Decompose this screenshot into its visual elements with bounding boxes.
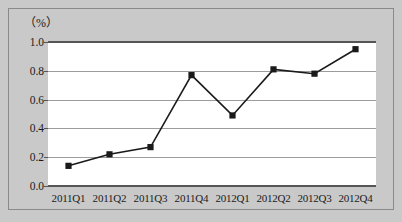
x-axis-tick-label: 2011Q1 (52, 192, 86, 204)
y-axis-tick-label: 0.0 (14, 180, 44, 192)
data-point-marker (147, 144, 153, 150)
y-axis-tick-label: 0.8 (14, 65, 44, 77)
y-axis-unit-label: （%） (24, 13, 58, 31)
x-axis-tick-label: 2012Q2 (256, 192, 290, 204)
y-axis-tick-label: 0.2 (14, 151, 44, 163)
x-axis-tick-label: 2011Q2 (93, 192, 127, 204)
y-axis-tick-label: 1.0 (14, 36, 44, 48)
data-point-marker (311, 71, 317, 77)
x-axis-tick-label: 2012Q1 (215, 192, 249, 204)
data-point-marker (229, 112, 235, 118)
x-axis-tick-label: 2011Q3 (134, 192, 168, 204)
data-point-marker (65, 163, 71, 169)
chart-figure: （%） 0.00.20.40.60.81.0 2011Q12011Q22011Q… (0, 0, 402, 222)
plot-area (48, 42, 376, 186)
data-point-marker (352, 46, 358, 52)
x-axis-tick-label: 2012Q3 (297, 192, 331, 204)
x-axis-tick-label: 2011Q4 (175, 192, 209, 204)
x-axis-tick-label: 2012Q4 (338, 192, 372, 204)
y-axis-tick-label: 0.6 (14, 94, 44, 106)
data-point-marker (188, 72, 194, 78)
data-point-marker (270, 66, 276, 72)
series-polyline (69, 49, 356, 166)
data-point-marker (106, 151, 112, 157)
data-series-line (48, 42, 376, 186)
y-axis-tick-label: 0.4 (14, 122, 44, 134)
